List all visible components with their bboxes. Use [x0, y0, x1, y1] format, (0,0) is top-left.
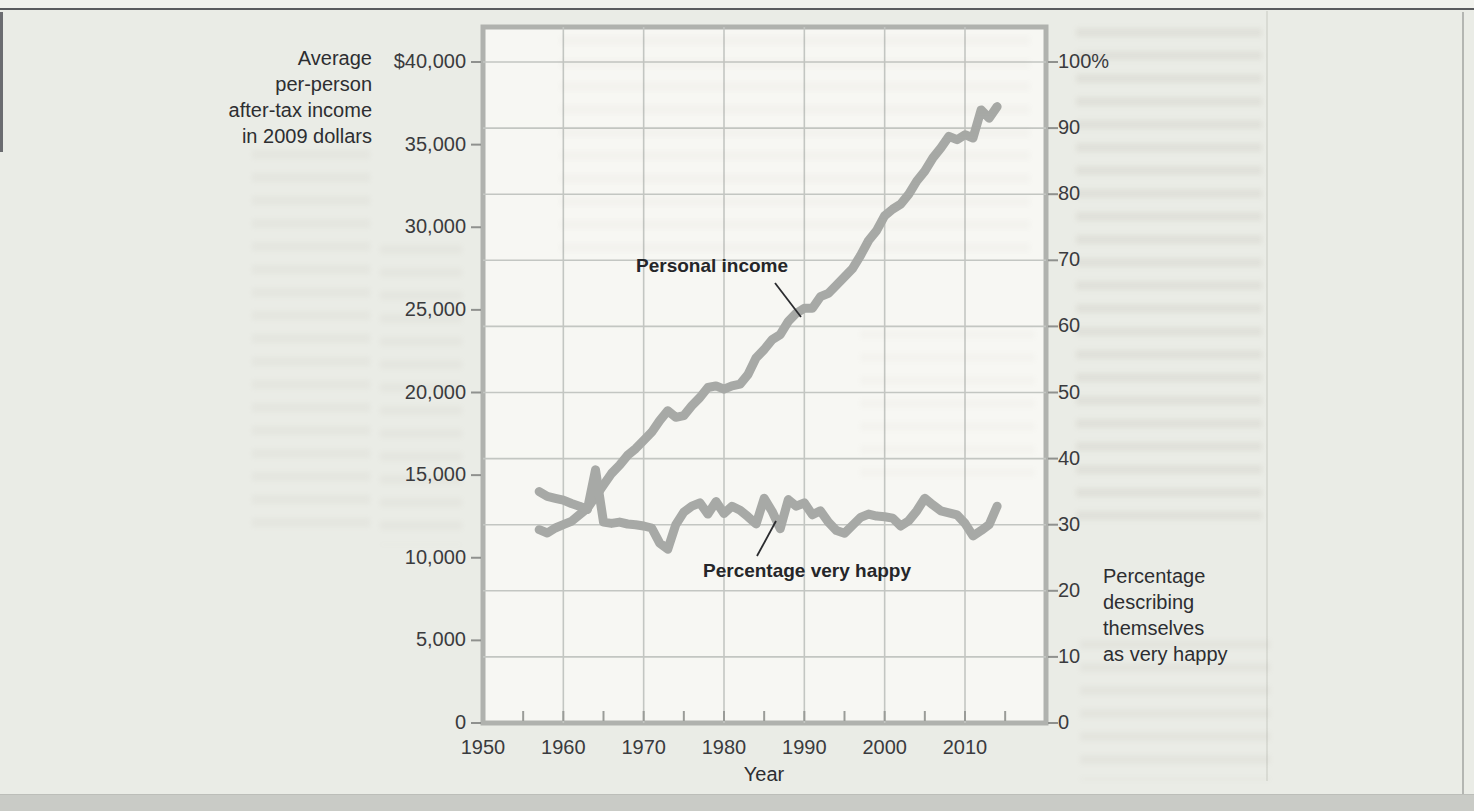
right-axis-tick-label: 70 — [1058, 248, 1080, 271]
x-axis-tick-label: 2000 — [853, 736, 917, 759]
left-axis-tick-label: $40,000 — [380, 50, 466, 73]
left-axis-tick-label: 35,000 — [380, 133, 466, 156]
left-axis-tick-label: 30,000 — [380, 215, 466, 238]
series-label-percentage-very-happy: Percentage very happy — [703, 560, 911, 582]
x-axis-tick-label: 1990 — [772, 736, 836, 759]
right-axis-tick-label: 60 — [1058, 314, 1080, 337]
right-axis-tick-label: 20 — [1058, 579, 1080, 602]
left-axis-tick-label: 25,000 — [380, 298, 466, 321]
right-axis-tick-label: 0 — [1058, 711, 1069, 734]
left-axis-tick-label: 20,000 — [380, 381, 466, 404]
right-axis-tick-label: 80 — [1058, 182, 1080, 205]
x-axis-tick-label: 1960 — [531, 736, 595, 759]
right-axis-tick-label: 10 — [1058, 645, 1080, 668]
right-axis-tick-label: 40 — [1058, 447, 1080, 470]
left-axis-tick-label: 10,000 — [380, 546, 466, 569]
x-axis-title: Year — [714, 761, 814, 787]
left-axis-tick-label: 5,000 — [380, 628, 466, 651]
left-axis-title: Average per-person after-tax income in 2… — [178, 45, 372, 149]
right-axis-tick-label: 90 — [1058, 116, 1080, 139]
x-axis-tick-label: 1980 — [692, 736, 756, 759]
right-axis-title: Percentage describing themselves as very… — [1103, 563, 1273, 667]
right-axis-tick-label: 50 — [1058, 381, 1080, 404]
plot-frame — [483, 27, 1046, 723]
x-axis-tick-label: 1970 — [612, 736, 676, 759]
left-axis-tick-label: 15,000 — [380, 463, 466, 486]
scanned-page: Average per-person after-tax income in 2… — [0, 0, 1474, 811]
x-axis-tick-label: 1950 — [451, 736, 515, 759]
left-axis-tick-label: 0 — [380, 711, 466, 734]
x-axis-tick-label: 2010 — [933, 736, 997, 759]
series-label-personal-income: Personal income — [636, 255, 788, 277]
right-axis-tick-label: 100% — [1058, 50, 1109, 73]
right-axis-tick-label: 30 — [1058, 513, 1080, 536]
